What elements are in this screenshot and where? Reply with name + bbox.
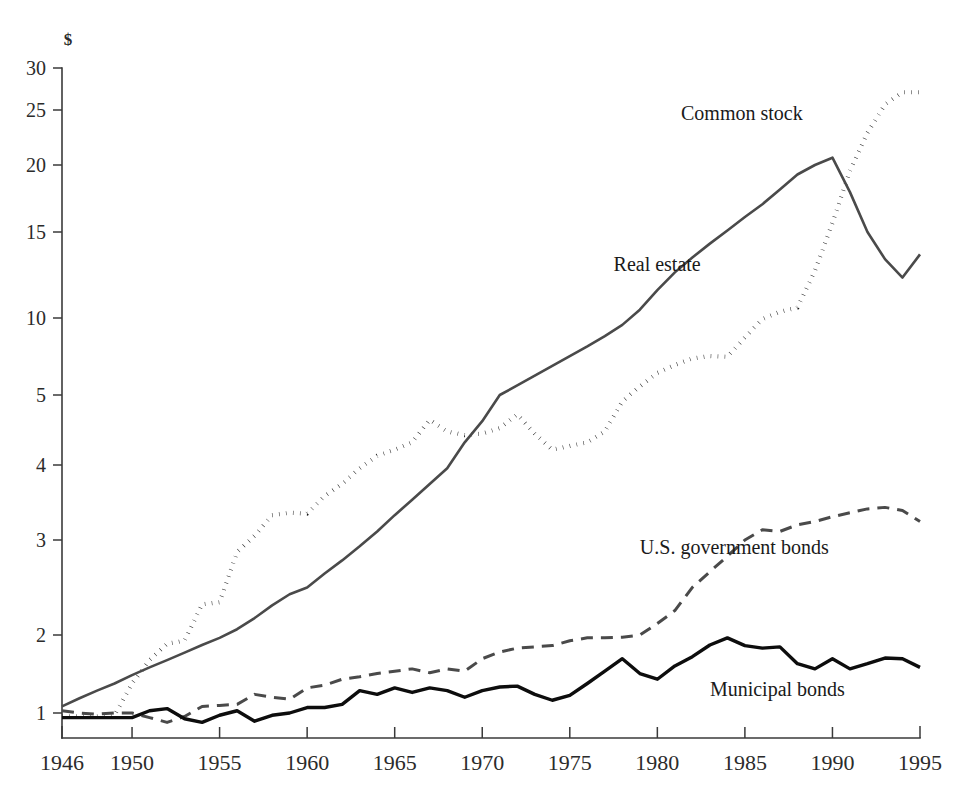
x-tick-label: 1975 bbox=[548, 750, 592, 775]
x-tick-label: 1970 bbox=[460, 750, 504, 775]
y-axis: 123451015202530$ bbox=[26, 30, 73, 738]
series-annotations: Common stockReal estateU.S. government b… bbox=[614, 102, 846, 701]
line-chart-plot: 123451015202530$ 19461950195519601965197… bbox=[0, 0, 971, 809]
x-tick-label: 1950 bbox=[110, 750, 154, 775]
y-tick-label: 10 bbox=[26, 307, 46, 329]
y-tick-label: 25 bbox=[26, 99, 46, 121]
series-line-common-stock bbox=[62, 92, 920, 716]
series-label-u-s-government-bonds: U.S. government bonds bbox=[640, 536, 829, 559]
series-label-real-estate: Real estate bbox=[614, 253, 701, 275]
x-tick-label: 1960 bbox=[285, 750, 329, 775]
y-tick-label: 2 bbox=[36, 624, 46, 646]
series-label-common-stock: Common stock bbox=[681, 102, 803, 124]
x-tick-label: 1955 bbox=[198, 750, 242, 775]
y-tick-label: 20 bbox=[26, 154, 46, 176]
x-tick-label: 1965 bbox=[373, 750, 417, 775]
y-tick-label: 1 bbox=[36, 702, 46, 724]
x-axis: 1946195019551960196519701975198019851990… bbox=[40, 726, 942, 775]
x-tick-label: 1946 bbox=[40, 750, 84, 775]
series-lines bbox=[62, 92, 920, 722]
x-tick-label: 1980 bbox=[635, 750, 679, 775]
x-tick-label: 1995 bbox=[898, 750, 942, 775]
chart-container: 123451015202530$ 19461950195519601965197… bbox=[0, 0, 971, 809]
y-tick-label: 3 bbox=[36, 529, 46, 551]
series-line-real-estate bbox=[62, 158, 920, 707]
x-tick-label: 1985 bbox=[723, 750, 767, 775]
y-axis-unit-label: $ bbox=[64, 30, 73, 49]
series-label-municipal-bonds: Municipal bonds bbox=[710, 678, 845, 701]
y-tick-label: 15 bbox=[26, 221, 46, 243]
y-tick-label: 5 bbox=[36, 384, 46, 406]
y-tick-label: 30 bbox=[26, 57, 46, 79]
x-tick-label: 1990 bbox=[810, 750, 854, 775]
y-tick-label: 4 bbox=[36, 454, 46, 476]
